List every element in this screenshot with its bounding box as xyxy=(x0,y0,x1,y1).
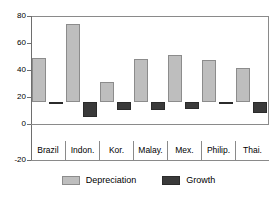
bar-depreciation xyxy=(134,59,148,102)
bar-group xyxy=(235,16,269,161)
x-axis-category-brazil: Brazil xyxy=(31,141,65,160)
bar-depreciation xyxy=(100,82,114,102)
bar-depreciation xyxy=(236,68,250,103)
x-axis-line xyxy=(31,160,269,161)
bar-group xyxy=(65,16,99,161)
y-axis-label-5: -20 xyxy=(0,156,26,164)
y-axis-label-1: 60 xyxy=(0,39,26,47)
bar-depreciation xyxy=(202,60,216,102)
legend-item-growth: Growth xyxy=(162,176,215,185)
bar-group xyxy=(99,16,133,161)
bar-growth xyxy=(185,102,199,109)
legend-swatch-growth-icon xyxy=(162,176,180,185)
x-axis-category-thai: Thai. xyxy=(235,141,269,160)
bar-depreciation xyxy=(168,55,182,103)
x-axis-category-indon: Indon. xyxy=(65,141,99,160)
legend-swatch-depreciation-icon xyxy=(62,176,80,185)
bar-depreciation xyxy=(66,24,80,103)
bar-growth xyxy=(253,102,267,113)
bar-growth xyxy=(151,102,165,110)
bar-growth xyxy=(219,102,233,104)
legend-label-growth: Growth xyxy=(186,176,215,185)
y-axis-label-2: 40 xyxy=(0,66,26,74)
bar-group xyxy=(201,16,235,161)
y-axis-labels: 80 60 40 20 0 -20 xyxy=(0,0,26,197)
bar-growth xyxy=(117,102,131,110)
bar-chart: 80 60 40 20 0 -20 BrazilIndon.Kor.Malay.… xyxy=(0,0,277,197)
bar-growth xyxy=(83,102,97,117)
bars-layer xyxy=(31,16,269,161)
bar-depreciation xyxy=(32,58,46,103)
bar-growth xyxy=(49,102,63,104)
x-axis-category-labels: BrazilIndon.Kor.Malay.Mex.Philip.Thai. xyxy=(31,141,269,160)
y-axis-label-0: 80 xyxy=(0,12,26,20)
x-axis-category-mex: Mex. xyxy=(167,141,201,160)
y-axis-label-3: 20 xyxy=(0,93,26,101)
legend-item-depreciation: Depreciation xyxy=(62,176,137,185)
x-axis-category-kor: Kor. xyxy=(99,141,133,160)
bar-group xyxy=(133,16,167,161)
x-axis-category-malay: Malay. xyxy=(133,141,167,160)
bar-group xyxy=(167,16,201,161)
chart-legend: Depreciation Growth xyxy=(0,170,277,190)
bar-group xyxy=(31,16,65,161)
legend-label-depreciation: Depreciation xyxy=(86,176,137,185)
y-axis-label-4: 0 xyxy=(0,120,26,128)
x-axis-category-philip: Philip. xyxy=(201,141,235,160)
zero-baseline xyxy=(31,124,269,125)
